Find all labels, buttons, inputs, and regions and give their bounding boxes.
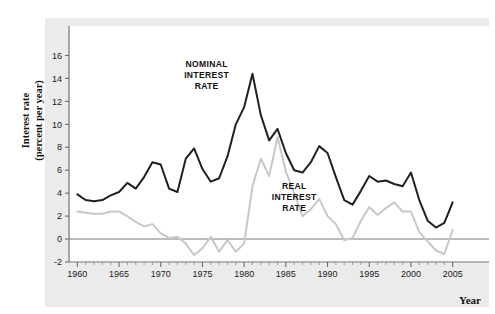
y-tick-label: 2 — [57, 211, 62, 221]
chart-figure: Interest rate (percent per year) Year -2… — [0, 0, 495, 314]
x-tick-label: 1990 — [318, 269, 338, 279]
plot-area: -202468101214161960196519701975198019851… — [0, 0, 495, 314]
y-tick-label: 10 — [52, 120, 62, 130]
x-tick-label: 1960 — [67, 269, 87, 279]
x-tick-label: 1985 — [276, 269, 296, 279]
x-tick-label: 1975 — [192, 269, 212, 279]
y-tick-label: 14 — [52, 74, 62, 84]
y-tick-label: 16 — [52, 51, 62, 61]
x-tick-label: 1970 — [151, 269, 171, 279]
y-tick-label: 12 — [52, 97, 62, 107]
x-tick-label: 1995 — [359, 269, 379, 279]
interest-rate-line-chart: -202468101214161960196519701975198019851… — [0, 0, 495, 314]
y-tick-label: -2 — [54, 257, 62, 267]
y-tick-label: 0 — [57, 234, 62, 244]
y-tick-label: 4 — [57, 188, 62, 198]
y-tick-label: 6 — [57, 165, 62, 175]
x-tick-label: 2005 — [443, 269, 463, 279]
x-tick-label: 1965 — [109, 269, 129, 279]
x-tick-label: 1980 — [234, 269, 254, 279]
y-tick-label: 8 — [57, 142, 62, 152]
x-tick-label: 2000 — [401, 269, 421, 279]
